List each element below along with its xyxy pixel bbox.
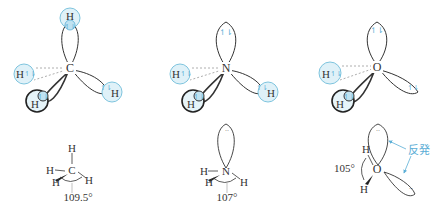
- hydrogen-label: H: [322, 68, 330, 80]
- svg-text:··: ··: [409, 186, 413, 192]
- hydrogen-label: H: [16, 68, 24, 80]
- bond-angle-label: 105°: [334, 162, 355, 174]
- repulsion-arrow: [389, 141, 406, 149]
- lone-pair-icon: ↿⇂: [407, 84, 419, 92]
- lone-pair-icon: ↿⇂: [219, 28, 232, 37]
- electron-pair-icon: ↿⇂: [24, 70, 36, 78]
- repulsion-arrow: [404, 156, 411, 173]
- lone-pair-lobe: [384, 172, 415, 196]
- hydrogen-label: H: [267, 87, 275, 99]
- molecular-orbital-diagram: H ↿⇂ H ↿⇂ H ↿⇂ H ↿⇂ C ↿⇂ H ↿⇂ H ↿⇂ H ↿⇂ …: [0, 0, 440, 210]
- ammonia-structure: ·· N H H H 107°: [200, 124, 248, 203]
- electron-pair-icon: ↿⇂: [100, 84, 112, 92]
- svg-text:H: H: [205, 176, 213, 188]
- angle-arc: [60, 177, 82, 182]
- water-orbital-model: ↿⇂ ↿⇂ H ↿⇂ H ↿⇂ O: [319, 22, 419, 112]
- ammonia-orbital-model: ↿⇂ H ↿⇂ H ↿⇂ H ↿⇂ N: [170, 22, 278, 112]
- center-atom-label: N: [222, 61, 231, 75]
- svg-text:H: H: [362, 143, 370, 155]
- svg-text:C: C: [68, 164, 75, 176]
- bond-angle-label: 109.5°: [63, 191, 92, 203]
- svg-text:O: O: [373, 162, 382, 176]
- electron-pair-icon: ↿⇂: [330, 70, 342, 78]
- center-atom-label: O: [373, 60, 382, 74]
- electron-pair-icon: ↿⇂: [193, 93, 205, 101]
- svg-text:H: H: [360, 183, 368, 195]
- svg-text:H: H: [52, 176, 60, 188]
- electron-pair-icon: ↿⇂: [37, 93, 49, 101]
- electron-pair-icon: ↿⇂: [180, 70, 192, 78]
- svg-text:H: H: [46, 164, 54, 176]
- methane-orbital-model: H ↿⇂ H ↿⇂ H ↿⇂ H ↿⇂ C: [14, 8, 122, 112]
- lone-pair-icon: ↿⇂: [370, 26, 383, 35]
- bond-angle-label: 107°: [217, 191, 238, 203]
- electron-pair-icon: ↿⇂: [256, 84, 268, 92]
- svg-text:H: H: [85, 174, 93, 186]
- repulsion-label: 反発: [408, 143, 430, 157]
- center-atom-label: C: [66, 61, 74, 75]
- svg-text:··: ··: [376, 128, 380, 134]
- angle-arc: [213, 178, 236, 183]
- hydrogen-label: H: [172, 68, 180, 80]
- svg-text:··: ··: [225, 128, 229, 134]
- svg-text:H: H: [68, 142, 76, 154]
- electron-pair-icon: ↿⇂: [64, 23, 76, 31]
- electron-pair-icon: ↿⇂: [343, 93, 355, 101]
- angle-arc: [361, 158, 366, 180]
- svg-text:H: H: [240, 176, 248, 188]
- hydrogen-label: H: [111, 87, 119, 99]
- methane-structure: H C H H H 109.5°: [46, 142, 93, 203]
- hydrogen-label: H: [66, 10, 74, 22]
- svg-text:N: N: [222, 165, 230, 177]
- water-structure: ·· ·· H O H 105° 反発: [334, 124, 430, 196]
